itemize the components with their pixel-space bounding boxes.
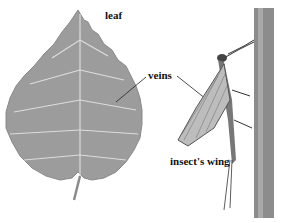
veins-wing-pointer bbox=[177, 76, 206, 99]
mayfly-illustration bbox=[178, 40, 254, 210]
leaf-illustration bbox=[6, 10, 142, 200]
twig-illustration bbox=[254, 8, 274, 218]
insect-wing-label: insect's wing bbox=[170, 155, 230, 167]
diagram: leaf veins insect's wing bbox=[0, 0, 283, 223]
veins-label: veins bbox=[148, 69, 172, 81]
leaf-label: leaf bbox=[105, 9, 122, 21]
diagram-artwork bbox=[0, 0, 283, 223]
